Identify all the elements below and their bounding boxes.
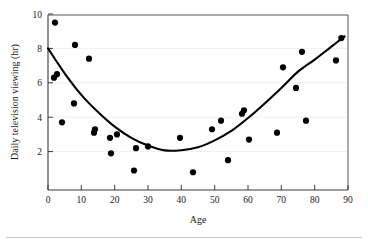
y-tick-label-2: 2	[37, 147, 42, 157]
y-tick-label-10: 10	[33, 10, 43, 20]
data-point	[338, 35, 344, 41]
x-tick-label-10: 10	[77, 195, 87, 205]
data-point	[303, 118, 309, 124]
y-tick-label-8: 8	[37, 44, 42, 54]
gridlines	[48, 48, 348, 151]
y-tick-label-4: 4	[37, 113, 42, 123]
x-tick-label-20: 20	[110, 195, 120, 205]
x-tick-label-0: 0	[46, 195, 51, 205]
y-axis-title: Daily television viewing (hr)	[9, 44, 21, 160]
data-point	[72, 42, 78, 48]
x-axis-tick-labels: 0 10 20 30 40 50 60 70 80 90	[46, 195, 353, 205]
data-point	[209, 126, 215, 132]
data-point	[280, 64, 286, 70]
plot-frame	[48, 15, 348, 190]
data-point	[131, 167, 137, 173]
data-point	[246, 136, 252, 142]
x-tick-label-70: 70	[277, 195, 287, 205]
data-point	[86, 56, 92, 62]
data-point	[218, 118, 224, 124]
x-axis-title: Age	[190, 214, 207, 225]
data-point	[190, 169, 196, 175]
chart-figure: 10 8 6 4 2 0 10 20 30 40 50 60 70	[0, 0, 368, 242]
data-point	[71, 100, 77, 106]
data-point	[59, 119, 65, 125]
data-point	[52, 20, 58, 26]
y-tick-label-6: 6	[37, 78, 42, 88]
y-axis-ticks	[48, 14, 53, 152]
data-point	[225, 157, 231, 163]
data-point	[299, 49, 305, 55]
data-point	[114, 131, 120, 137]
data-point	[177, 135, 183, 141]
x-tick-label-30: 30	[143, 195, 153, 205]
data-point	[92, 126, 98, 132]
data-point	[133, 145, 139, 151]
x-tick-label-50: 50	[210, 195, 220, 205]
x-tick-label-80: 80	[310, 195, 320, 205]
x-tick-label-60: 60	[243, 195, 253, 205]
data-point	[107, 135, 113, 141]
scatter-plot-canvas: 10 8 6 4 2 0 10 20 30 40 50 60 70	[0, 0, 368, 242]
data-point	[54, 71, 60, 77]
y-axis-tick-labels: 10 8 6 4 2	[33, 10, 43, 158]
data-point	[108, 150, 114, 156]
data-point	[293, 85, 299, 91]
x-axis-ticks	[48, 185, 348, 190]
data-point	[333, 57, 339, 63]
x-tick-label-40: 40	[177, 195, 187, 205]
data-point	[241, 107, 247, 113]
x-tick-label-90: 90	[343, 195, 353, 205]
data-point	[145, 143, 151, 149]
data-point	[274, 130, 280, 136]
